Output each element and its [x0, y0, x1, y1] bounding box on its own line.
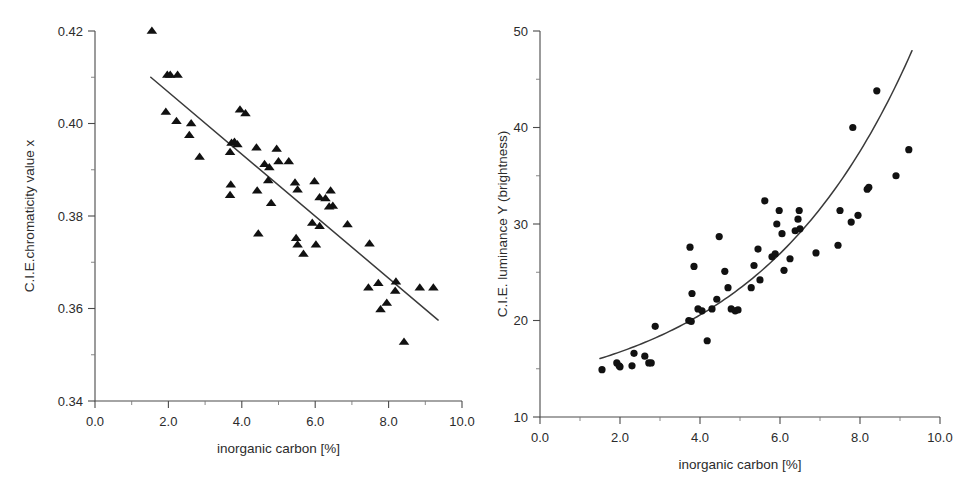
data-point-circle — [854, 212, 861, 219]
data-point-triangle — [291, 234, 302, 241]
data-point-circle — [648, 359, 655, 366]
data-point-circle — [698, 307, 705, 314]
x-tick-label: 10.0 — [927, 430, 952, 445]
y-tick-label: 20 — [514, 313, 528, 328]
data-point-triangle — [266, 199, 277, 206]
data-point-circle — [796, 225, 803, 232]
data-point-circle — [716, 233, 723, 240]
x-axis-title: inorganic carbon [%] — [678, 457, 801, 472]
data-point-triangle — [194, 152, 205, 159]
data-point-circle — [721, 268, 728, 275]
data-point-triangle — [292, 185, 303, 192]
x-tick-label: 4.0 — [233, 414, 251, 429]
data-point-triangle — [290, 178, 301, 185]
data-point-circle — [776, 207, 783, 214]
data-point-triangle — [309, 177, 320, 184]
data-point-triangle — [226, 180, 237, 187]
x-tick-label: 8.0 — [851, 430, 869, 445]
data-point-circle — [812, 249, 819, 256]
data-point-triangle — [307, 219, 318, 226]
data-point-circle — [780, 267, 787, 274]
data-point-triangle — [381, 299, 392, 306]
regression-curve — [600, 51, 912, 359]
x-tick-label: 8.0 — [380, 414, 398, 429]
data-point-triangle — [311, 240, 322, 247]
y-tick-label: 0.36 — [58, 301, 83, 316]
scatter-plot-luminance: 10203040500.02.04.06.08.010.0inorganic c… — [485, 0, 970, 483]
y-tick-label: 30 — [514, 217, 528, 232]
data-point-triangle — [147, 27, 158, 34]
data-point-triangle — [428, 283, 439, 290]
data-point-circle — [641, 353, 648, 360]
data-point-circle — [796, 207, 803, 214]
data-point-triangle — [364, 239, 375, 246]
x-axis-title: inorganic carbon [%] — [217, 441, 340, 456]
y-tick-label: 0.40 — [58, 116, 83, 131]
data-point-circle — [630, 350, 637, 357]
data-point-triangle — [325, 186, 336, 193]
data-point-triangle — [399, 337, 410, 344]
chart-panel-left: 0.340.360.380.400.420.02.04.06.08.010.0i… — [0, 0, 485, 483]
x-tick-label: 2.0 — [159, 414, 177, 429]
data-point-circle — [794, 216, 801, 223]
data-point-circle — [688, 290, 695, 297]
x-tick-label: 6.0 — [306, 414, 324, 429]
data-point-triangle — [283, 157, 294, 164]
data-point-circle — [892, 172, 899, 179]
data-point-triangle — [273, 157, 284, 164]
x-tick-label: 4.0 — [691, 430, 709, 445]
data-series-0 — [147, 27, 439, 345]
chart-panel-right: 10203040500.02.04.06.08.010.0inorganic c… — [485, 0, 970, 483]
y-tick-label: 0.38 — [58, 209, 83, 224]
data-point-circle — [616, 363, 623, 370]
data-point-triangle — [342, 220, 353, 227]
y-tick-label: 40 — [514, 120, 528, 135]
y-tick-label: 0.34 — [58, 394, 83, 409]
y-axis-title: C.I.E. luminance Y (brightness) — [495, 131, 510, 317]
data-point-circle — [688, 318, 695, 325]
data-point-circle — [686, 244, 693, 251]
y-tick-label: 50 — [514, 24, 528, 39]
data-point-circle — [849, 124, 856, 131]
y-axis-title: C.I.E.chromaticity value x — [22, 140, 37, 293]
data-point-circle — [748, 284, 755, 291]
data-point-triangle — [184, 131, 195, 138]
data-point-circle — [628, 362, 635, 369]
x-tick-label: 2.0 — [611, 430, 629, 445]
data-point-circle — [652, 323, 659, 330]
y-tick-label: 0.42 — [58, 24, 83, 39]
data-point-triangle — [225, 191, 236, 198]
data-point-circle — [750, 262, 757, 269]
data-point-circle — [756, 276, 763, 283]
data-point-triangle — [161, 108, 172, 115]
data-point-triangle — [171, 117, 182, 124]
scatter-plot-chromaticity: 0.340.360.380.400.420.02.04.06.08.010.0i… — [0, 0, 485, 483]
data-point-triangle — [186, 119, 197, 126]
data-point-circle — [834, 242, 841, 249]
data-point-circle — [734, 306, 741, 313]
data-point-triangle — [253, 229, 264, 236]
data-point-circle — [761, 197, 768, 204]
data-point-triangle — [251, 143, 262, 150]
data-point-triangle — [252, 186, 263, 193]
data-point-circle — [690, 263, 697, 270]
data-point-circle — [836, 207, 843, 214]
data-series-0 — [598, 87, 912, 373]
axis-spines — [95, 31, 462, 401]
data-point-circle — [713, 296, 720, 303]
data-point-circle — [772, 250, 779, 257]
data-point-circle — [778, 230, 785, 237]
data-point-triangle — [271, 145, 282, 152]
data-point-circle — [873, 87, 880, 94]
data-point-circle — [905, 146, 912, 153]
data-point-triangle — [298, 250, 309, 257]
data-point-circle — [865, 184, 872, 191]
data-point-triangle — [363, 283, 374, 290]
data-point-circle — [848, 218, 855, 225]
data-point-circle — [754, 245, 761, 252]
figure-container: 0.340.360.380.400.420.02.04.06.08.010.0i… — [0, 0, 970, 483]
x-tick-label: 0.0 — [86, 414, 104, 429]
x-tick-label: 0.0 — [531, 430, 549, 445]
data-point-circle — [773, 220, 780, 227]
y-tick-label: 10 — [514, 410, 528, 425]
